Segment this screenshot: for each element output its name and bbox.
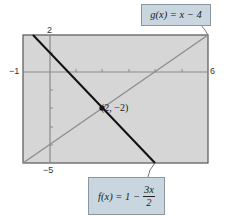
y-min-tick-label: −5	[43, 165, 53, 175]
f-fraction-numerator: 3x	[143, 184, 155, 197]
f-function-label: f(x) = 1 − 3x 2	[88, 177, 165, 215]
g-function-label: g(x) = x − 4	[141, 4, 211, 26]
y-max-tick-label: 2	[47, 25, 52, 35]
x-max-tick-label: 6	[210, 66, 215, 76]
f-formula-prefix: f(x) = 1 −	[98, 191, 140, 202]
x-min-tick-label: −1	[9, 66, 19, 76]
f-callout-leader	[148, 163, 155, 177]
intersection-label: (2, −2)	[101, 102, 128, 113]
f-fraction-denominator: 2	[146, 197, 151, 209]
f-fraction: 3x 2	[143, 184, 155, 209]
g-formula: g(x) = x − 4	[150, 9, 202, 20]
